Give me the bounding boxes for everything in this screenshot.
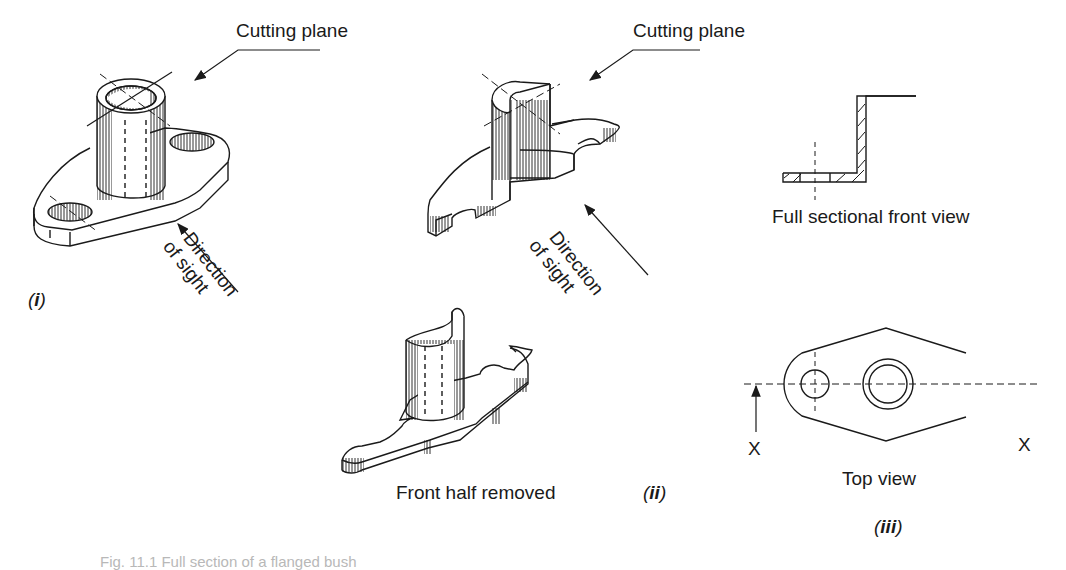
full-sectional-front-view-label: Full sectional front view: [772, 206, 969, 228]
top-view-label: Top view: [842, 468, 916, 490]
panel-label-i: (i): [28, 289, 46, 311]
panel-iii-sectional-front-view: [783, 96, 916, 200]
panel-label-iii: (iii): [874, 516, 903, 538]
panel-label-ii: (ii): [643, 482, 666, 504]
figure-caption: Fig. 11.1 Full section of a flanged bush: [100, 553, 357, 570]
cutting-plane-label-i: Cutting plane: [236, 20, 348, 42]
section-mark-x-left: X: [748, 438, 761, 460]
cutting-plane-label-ii: Cutting plane: [633, 20, 745, 42]
front-half-removed-label: Front half removed: [396, 482, 555, 504]
panel-iii-top-view: [744, 328, 1040, 441]
panel-ii-front-half-removed: [342, 309, 532, 473]
section-mark-x-right: X: [1018, 434, 1031, 456]
